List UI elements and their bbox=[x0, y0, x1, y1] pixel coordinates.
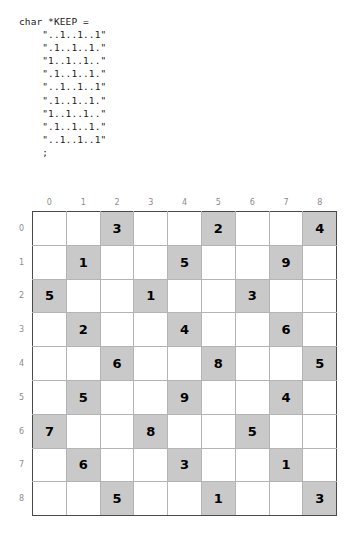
grid-cell-r0-c7[interactable] bbox=[269, 212, 303, 246]
grid-cell-r4-c2[interactable]: 6 bbox=[100, 347, 134, 381]
grid-cell-r6-c0[interactable]: 7 bbox=[33, 414, 67, 448]
grid-cell-r6-c1[interactable] bbox=[66, 414, 100, 448]
grid-cell-r4-c3[interactable] bbox=[134, 347, 168, 381]
grid-cell-r1-c2[interactable] bbox=[100, 245, 134, 279]
grid-cell-r0-c6[interactable] bbox=[235, 212, 269, 246]
grid-cell-r0-c1[interactable] bbox=[66, 212, 100, 246]
grid-cell-r2-c8[interactable] bbox=[303, 279, 337, 313]
grid-cell-r5-c2[interactable] bbox=[100, 380, 134, 414]
grid-cell-r2-c3[interactable]: 1 bbox=[134, 279, 168, 313]
sudoku-grid-container: 012345678 032411592513324646855594678576… bbox=[11, 194, 337, 516]
grid-cell-r1-c4[interactable]: 5 bbox=[168, 245, 202, 279]
grid-cell-r0-c0[interactable] bbox=[33, 212, 67, 246]
grid-cell-r3-c8[interactable] bbox=[303, 313, 337, 347]
grid-cell-r2-c5[interactable] bbox=[201, 279, 235, 313]
grid-cell-r6-c4[interactable] bbox=[168, 414, 202, 448]
grid-cell-r1-c3[interactable] bbox=[134, 245, 168, 279]
grid-cell-r3-c3[interactable] bbox=[134, 313, 168, 347]
grid-cell-r1-c8[interactable] bbox=[303, 245, 337, 279]
grid-cell-r5-c3[interactable] bbox=[134, 380, 168, 414]
code-line: "..1..1..1" bbox=[19, 28, 106, 41]
grid-cell-r4-c6[interactable] bbox=[235, 347, 269, 381]
grid-cell-r0-c2[interactable]: 3 bbox=[100, 212, 134, 246]
row-header-1: 1 bbox=[11, 245, 33, 279]
grid-cell-r0-c3[interactable] bbox=[134, 212, 168, 246]
grid-body: 032411592513324646855594678576318513 bbox=[11, 212, 337, 516]
code-line: ".1..1..1." bbox=[19, 120, 106, 133]
grid-cell-r7-c1[interactable]: 6 bbox=[66, 448, 100, 482]
grid-cell-r2-c4[interactable] bbox=[168, 279, 202, 313]
grid-cell-r6-c6[interactable]: 5 bbox=[235, 414, 269, 448]
grid-cell-r0-c5[interactable]: 2 bbox=[201, 212, 235, 246]
grid-cell-r1-c6[interactable] bbox=[235, 245, 269, 279]
grid-cell-r5-c7[interactable]: 4 bbox=[269, 380, 303, 414]
grid-cell-r7-c4[interactable]: 3 bbox=[168, 448, 202, 482]
grid-cell-r2-c2[interactable] bbox=[100, 279, 134, 313]
grid-cell-r8-c8[interactable]: 3 bbox=[303, 482, 337, 516]
grid-cell-r2-c6[interactable]: 3 bbox=[235, 279, 269, 313]
grid-cell-r2-c1[interactable] bbox=[66, 279, 100, 313]
grid-cell-r6-c3[interactable]: 8 bbox=[134, 414, 168, 448]
grid-cell-r8-c2[interactable]: 5 bbox=[100, 482, 134, 516]
code-line: ; bbox=[19, 146, 106, 159]
row-header-4: 4 bbox=[11, 347, 33, 381]
grid-cell-r7-c8[interactable] bbox=[303, 448, 337, 482]
grid-cell-r1-c5[interactable] bbox=[201, 245, 235, 279]
grid-cell-r3-c5[interactable] bbox=[201, 313, 235, 347]
grid-cell-r8-c5[interactable]: 1 bbox=[201, 482, 235, 516]
grid-cell-r7-c6[interactable] bbox=[235, 448, 269, 482]
code-line: ".1..1..1." bbox=[19, 41, 106, 54]
grid-cell-r8-c7[interactable] bbox=[269, 482, 303, 516]
grid-cell-r0-c4[interactable] bbox=[168, 212, 202, 246]
grid-cell-r5-c1[interactable]: 5 bbox=[66, 380, 100, 414]
grid-cell-r8-c6[interactable] bbox=[235, 482, 269, 516]
row-header-2: 2 bbox=[11, 279, 33, 313]
grid-cell-r7-c7[interactable]: 1 bbox=[269, 448, 303, 482]
grid-cell-r7-c0[interactable] bbox=[33, 448, 67, 482]
grid-cell-r8-c0[interactable] bbox=[33, 482, 67, 516]
grid-cell-r8-c1[interactable] bbox=[66, 482, 100, 516]
sudoku-grid: 012345678 032411592513324646855594678576… bbox=[11, 194, 337, 516]
grid-cell-r5-c6[interactable] bbox=[235, 380, 269, 414]
grid-cell-r6-c5[interactable] bbox=[201, 414, 235, 448]
grid-cell-r5-c0[interactable] bbox=[33, 380, 67, 414]
grid-cell-r2-c7[interactable] bbox=[269, 279, 303, 313]
grid-cell-r3-c0[interactable] bbox=[33, 313, 67, 347]
grid-cell-r8-c4[interactable] bbox=[168, 482, 202, 516]
grid-cell-r5-c8[interactable] bbox=[303, 380, 337, 414]
grid-cell-r3-c6[interactable] bbox=[235, 313, 269, 347]
column-header-7: 7 bbox=[269, 194, 303, 212]
code-line: ".1..1..1." bbox=[19, 67, 106, 80]
grid-corner-cell bbox=[11, 194, 33, 212]
grid-cell-r3-c1[interactable]: 2 bbox=[66, 313, 100, 347]
grid-cell-r2-c0[interactable]: 5 bbox=[33, 279, 67, 313]
grid-cell-r1-c1[interactable]: 1 bbox=[66, 245, 100, 279]
grid-row: 2513 bbox=[11, 279, 337, 313]
row-header-8: 8 bbox=[11, 482, 33, 516]
grid-cell-r3-c4[interactable]: 4 bbox=[168, 313, 202, 347]
grid-cell-r6-c2[interactable] bbox=[100, 414, 134, 448]
grid-cell-r6-c8[interactable] bbox=[303, 414, 337, 448]
grid-cell-r3-c7[interactable]: 6 bbox=[269, 313, 303, 347]
grid-row: 0324 bbox=[11, 212, 337, 246]
row-header-7: 7 bbox=[11, 448, 33, 482]
grid-cell-r4-c0[interactable] bbox=[33, 347, 67, 381]
grid-cell-r5-c4[interactable]: 9 bbox=[168, 380, 202, 414]
grid-cell-r7-c3[interactable] bbox=[134, 448, 168, 482]
grid-cell-r4-c1[interactable] bbox=[66, 347, 100, 381]
grid-cell-r8-c3[interactable] bbox=[134, 482, 168, 516]
grid-cell-r4-c7[interactable] bbox=[269, 347, 303, 381]
grid-cell-r6-c7[interactable] bbox=[269, 414, 303, 448]
grid-cell-r5-c5[interactable] bbox=[201, 380, 235, 414]
grid-cell-r4-c8[interactable]: 5 bbox=[303, 347, 337, 381]
grid-cell-r0-c8[interactable]: 4 bbox=[303, 212, 337, 246]
grid-row: 4685 bbox=[11, 347, 337, 381]
grid-cell-r7-c2[interactable] bbox=[100, 448, 134, 482]
grid-cell-r1-c0[interactable] bbox=[33, 245, 67, 279]
grid-cell-r7-c5[interactable] bbox=[201, 448, 235, 482]
grid-cell-r1-c7[interactable]: 9 bbox=[269, 245, 303, 279]
grid-cell-r3-c2[interactable] bbox=[100, 313, 134, 347]
grid-cell-r4-c5[interactable]: 8 bbox=[201, 347, 235, 381]
code-listing: char *KEEP = "..1..1..1" ".1..1..1." "1.… bbox=[19, 15, 106, 159]
grid-cell-r4-c4[interactable] bbox=[168, 347, 202, 381]
